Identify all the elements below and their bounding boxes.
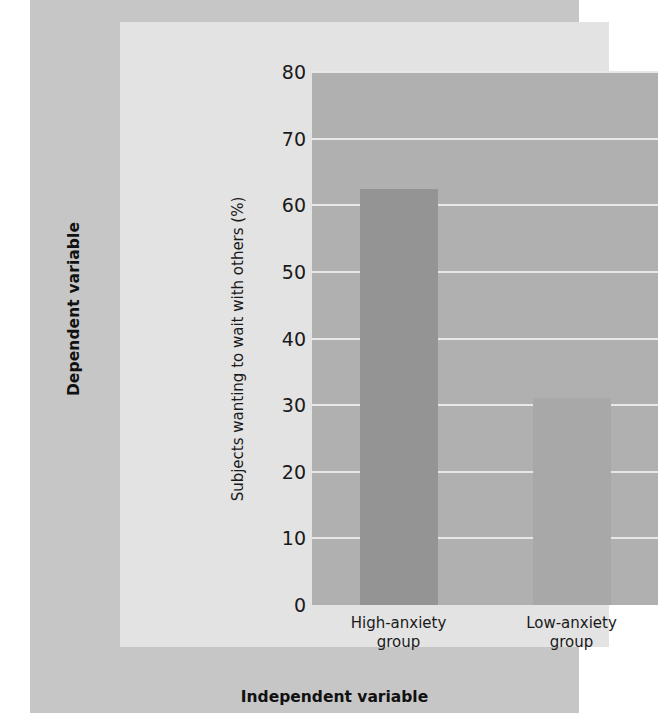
chart-panel: Subjects wanting to wait with others (%)…: [120, 22, 609, 647]
bar-2: [533, 398, 611, 605]
x-category-label: High-anxietygroup: [312, 614, 485, 652]
bar-1: [360, 189, 438, 605]
x-category-label: Low-anxietygroup: [485, 614, 658, 652]
y-tick-label: 70: [260, 128, 306, 150]
y-axis-title: Subjects wanting to wait with others (%): [229, 169, 247, 529]
y-tick-label: 20: [260, 461, 306, 483]
y-tick-label: 50: [260, 261, 306, 283]
y-tick-label: 0: [260, 594, 306, 616]
y-axis-tick-labels: 01020304050607080: [250, 72, 306, 605]
x-axis-category-labels: High-anxietygroupLow-anxietygroup: [312, 614, 658, 668]
y-tick-label: 30: [260, 394, 306, 416]
y-tick-label: 60: [260, 194, 306, 216]
gridline: [312, 138, 658, 140]
outer-panel: Dependent variable Subjects wanting to w…: [30, 0, 579, 713]
dependent-variable-label: Dependent variable: [65, 209, 83, 409]
y-tick-label: 10: [260, 527, 306, 549]
y-tick-label: 40: [260, 328, 306, 350]
plot-area: [312, 72, 658, 605]
y-tick-label: 80: [260, 61, 306, 83]
independent-variable-label: Independent variable: [90, 688, 579, 706]
gridline: [312, 71, 658, 73]
